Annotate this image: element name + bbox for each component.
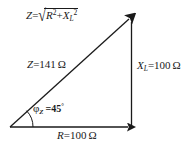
impedance-magnitude-label: Z=141Ω	[27, 59, 66, 70]
formula-radicand: R2+XL2	[44, 8, 78, 24]
xl-unit: Ω	[173, 59, 181, 71]
resistance-magnitude-label: R=100Ω	[57, 130, 97, 141]
phi-subscript: Z	[39, 108, 43, 115]
r-symbol: R	[57, 129, 64, 141]
formula-term2-exponent: 2	[74, 8, 78, 17]
r-value: 100	[70, 129, 87, 141]
z-unit: Ω	[58, 58, 66, 70]
formula-term1-var: R	[46, 9, 53, 21]
phi-degree-symbol: °	[61, 102, 64, 109]
impedance-triangle-figure: Z=√R2+XL2 Z=141Ω XL=100Ω φZ=45° R=100Ω	[0, 0, 181, 145]
r-unit: Ω	[88, 129, 96, 141]
xl-symbol: X	[137, 59, 144, 71]
phase-angle-label: φZ=45°	[33, 103, 64, 116]
radical-sign-icon: √	[38, 7, 46, 25]
impedance-vector-line	[10, 19, 129, 127]
reactance-magnitude-label: XL=100Ω	[137, 60, 181, 73]
impedance-formula-label: Z=√R2+XL2	[26, 8, 78, 24]
z-value: 141	[39, 58, 56, 70]
xl-value: 100	[154, 59, 171, 71]
phi-value: 45	[51, 103, 61, 114]
